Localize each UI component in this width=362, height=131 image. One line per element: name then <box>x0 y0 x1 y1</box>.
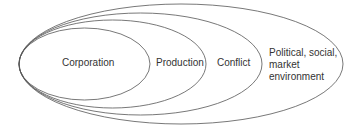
label-corporation: Corporation <box>62 57 114 69</box>
label-environment: Political, social, market environment <box>269 47 337 83</box>
label-environment-line-2: market <box>269 59 337 71</box>
label-production: Production <box>156 57 204 69</box>
label-conflict: Conflict <box>217 57 250 69</box>
label-environment-line-3: environment <box>269 71 337 83</box>
label-environment-line-1: Political, social, <box>269 47 337 59</box>
